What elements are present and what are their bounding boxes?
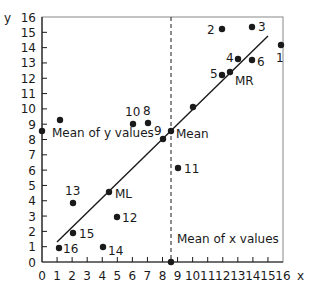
y-tick-label: 0 — [28, 256, 36, 270]
mean-x-marker — [168, 259, 174, 265]
point-mr — [227, 69, 233, 75]
point-unlabeled-left — [57, 117, 63, 123]
y-tick-label: 1 — [28, 240, 36, 254]
y-tick-label: 2 — [28, 225, 36, 239]
y-tick-label: 5 — [28, 179, 36, 193]
x-tick-label: 5 — [113, 269, 121, 283]
label-13: 13 — [65, 184, 80, 198]
point-4 — [235, 56, 241, 62]
label-4: 4 — [226, 51, 234, 65]
y-axis-ticks: 012345678910111213141516 — [21, 11, 47, 270]
data-points — [39, 24, 284, 265]
point-16 — [56, 245, 62, 251]
label-10: 10 — [125, 105, 140, 119]
y-tick-label: 7 — [28, 148, 36, 162]
point-2 — [219, 26, 225, 32]
scatter-chart: 012345678910111213141516 012345678910111… — [0, 0, 311, 297]
x-tick-label: 9 — [174, 269, 182, 283]
x-tick-label: 6 — [129, 269, 137, 283]
x-tick-label: 13 — [230, 269, 245, 283]
point-14 — [100, 244, 106, 250]
x-tick-label: 10 — [185, 269, 200, 283]
point-12 — [114, 214, 120, 220]
y-tick-label: 10 — [21, 102, 36, 116]
label-6: 6 — [257, 55, 265, 69]
point-5 — [219, 72, 225, 78]
y-tick-label: 3 — [28, 210, 36, 224]
x-tick-label: 14 — [245, 269, 260, 283]
x-tick-label: 8 — [159, 269, 167, 283]
x-tick-label: 2 — [68, 269, 76, 283]
label-3: 3 — [258, 20, 266, 34]
label-mean-x: Mean of x values — [177, 232, 279, 246]
label-1: 1 — [276, 51, 284, 65]
x-tick-label: 4 — [98, 269, 106, 283]
label-ml: ML — [115, 187, 132, 201]
label-mr: MR — [235, 74, 254, 88]
y-tick-label: 8 — [28, 133, 36, 147]
y-tick-label: 14 — [21, 41, 36, 55]
point-13 — [70, 200, 76, 206]
y-tick-label: 12 — [21, 72, 36, 86]
x-tick-label: 16 — [275, 269, 290, 283]
y-tick-label: 6 — [28, 164, 36, 178]
x-tick-label: 12 — [215, 269, 230, 283]
label-mean: Mean — [176, 127, 209, 141]
label-5: 5 — [210, 67, 218, 81]
x-axis-label: x — [297, 269, 304, 283]
point-ml — [106, 189, 112, 195]
point-1 — [278, 42, 284, 48]
x-tick-label: 1 — [53, 269, 61, 283]
x-axis-ticks: 012345678910111213141516 — [38, 257, 290, 283]
y-tick-label: 4 — [28, 194, 36, 208]
point-unlabeled-line — [190, 104, 196, 110]
label-12: 12 — [122, 211, 137, 225]
label-2: 2 — [207, 23, 215, 37]
label-mean-y: Mean of y values — [52, 126, 154, 140]
x-tick-label: 7 — [144, 269, 152, 283]
y-axis-label: y — [4, 11, 11, 25]
label-15: 15 — [79, 227, 94, 241]
point-11 — [175, 165, 181, 171]
x-tick-label: 15 — [260, 269, 275, 283]
y-tick-label: 13 — [21, 56, 36, 70]
point-15 — [70, 230, 76, 236]
y-tick-label: 9 — [28, 118, 36, 132]
point-mean — [168, 128, 174, 134]
label-14: 14 — [108, 244, 123, 258]
point-6 — [249, 57, 255, 63]
y-tick-label: 11 — [21, 87, 36, 101]
x-tick-label: 11 — [200, 269, 215, 283]
x-tick-label: 3 — [83, 269, 91, 283]
y-tick-label: 15 — [21, 26, 36, 40]
y-tick-label: 16 — [21, 11, 36, 25]
label-16: 16 — [63, 242, 78, 256]
point-3 — [249, 24, 255, 30]
x-tick-label: 0 — [38, 269, 46, 283]
label-8: 8 — [143, 104, 151, 118]
label-11: 11 — [184, 162, 199, 176]
label-9: 9 — [154, 124, 162, 138]
mean-y-marker — [39, 128, 45, 134]
